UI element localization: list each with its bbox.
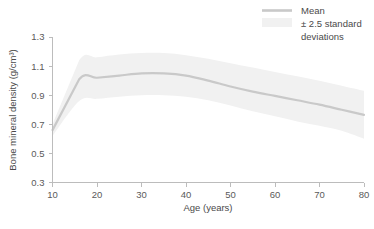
y-tick-label: 1.3: [31, 31, 44, 42]
y-tick-label: 1.1: [31, 61, 44, 72]
y-tick-label: 0.3: [31, 177, 44, 188]
y-tick-label: 0.9: [31, 90, 44, 101]
legend-mean-label: Mean: [301, 5, 325, 16]
bone-mineral-density-line-chart: 0.30.50.70.91.11.3 1020304050607080 Bone…: [0, 0, 374, 229]
y-axis-ticks: 0.30.50.70.91.11.3: [31, 31, 52, 188]
x-tick-label: 60: [270, 189, 281, 200]
legend-band-swatch-icon: [262, 18, 292, 27]
x-tick-label: 50: [225, 189, 236, 200]
chart-legend: Mean ± 2.5 standard deviations: [262, 5, 362, 42]
x-axis: 1020304050607080: [47, 183, 369, 200]
x-tick-label: 40: [181, 189, 192, 200]
y-tick-label: 0.7: [31, 119, 44, 130]
y-axis: 0.30.50.70.91.11.3: [31, 31, 52, 188]
x-tick-label: 30: [136, 189, 147, 200]
legend-band-label-line2: deviations: [301, 31, 344, 42]
x-axis-ticks: 1020304050607080: [47, 183, 369, 200]
chart-figure: 0.30.50.70.91.11.3 1020304050607080 Bone…: [0, 0, 374, 229]
y-tick-label: 0.5: [31, 148, 44, 159]
standard-deviation-band: [53, 53, 365, 139]
x-tick-label: 10: [47, 189, 58, 200]
x-axis-title: Age (years): [183, 202, 232, 213]
legend-band-label-line1: ± 2.5 standard: [301, 18, 362, 29]
x-tick-label: 80: [359, 189, 370, 200]
x-tick-label: 70: [314, 189, 325, 200]
y-axis-title: Bone mineral density (g/cm³): [7, 49, 18, 170]
x-tick-label: 20: [92, 189, 103, 200]
